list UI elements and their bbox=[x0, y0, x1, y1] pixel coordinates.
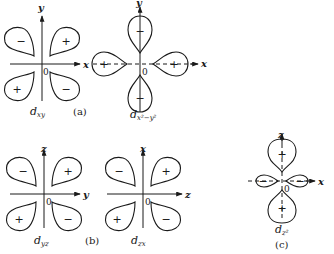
sign-lower-left: + bbox=[112, 213, 121, 226]
sign-upper-right: + bbox=[63, 165, 72, 178]
axis-label-horizontal: x bbox=[317, 176, 325, 187]
sign-upper-right: + bbox=[61, 35, 70, 48]
orbital-name: dzx bbox=[131, 234, 146, 248]
orbital-name: dyz bbox=[34, 234, 49, 248]
axis-label-horizontal: x bbox=[82, 59, 90, 70]
orbital-name: dz² bbox=[275, 223, 289, 237]
orbital-dx2-y2: y x 0 − − + + dx²−y² bbox=[92, 0, 208, 122]
panel-label-a: (a) bbox=[73, 106, 87, 117]
origin-label: 0 bbox=[284, 184, 290, 194]
axis-label-horizontal: x bbox=[200, 58, 208, 69]
sign-top: + bbox=[277, 148, 286, 161]
origin-label: 0 bbox=[142, 67, 148, 77]
origin-label: 0 bbox=[43, 67, 49, 77]
axis-label-horizontal: z bbox=[184, 189, 191, 200]
panel-label-c: (c) bbox=[275, 239, 289, 250]
sign-left-ring: − bbox=[258, 175, 267, 188]
sign-lower-right: − bbox=[61, 83, 70, 96]
axis-label-vertical: z bbox=[277, 129, 284, 140]
sign-upper-left: − bbox=[114, 165, 123, 178]
origin-label: 0 bbox=[145, 197, 151, 207]
sign-bottom: − bbox=[135, 92, 144, 105]
panel-label-b: (b) bbox=[85, 235, 99, 246]
axis-label-vertical: z bbox=[40, 143, 47, 154]
orbital-dz2: z x 0 + + − − dz² bbox=[248, 129, 325, 237]
axis-label-horizontal: y bbox=[82, 189, 90, 200]
sign-upper-left: − bbox=[18, 165, 27, 178]
sign-lower-left: + bbox=[14, 213, 23, 226]
orbital-dyz: z y 0 − + + − dyz bbox=[7, 143, 90, 248]
sign-left: + bbox=[99, 58, 108, 71]
axis-label-vertical: x bbox=[139, 143, 147, 154]
axis-label-vertical: y bbox=[135, 0, 143, 8]
sign-right-ring: − bbox=[295, 175, 304, 188]
sign-lower-right: − bbox=[161, 213, 170, 226]
d-orbital-diagram: y x 0 − + + − dxy (a) y x 0 − − + + dx²−… bbox=[0, 0, 334, 254]
origin-label: 0 bbox=[46, 197, 52, 207]
sign-right: + bbox=[169, 58, 178, 71]
sign-lower-right: − bbox=[63, 213, 72, 226]
axis-label-vertical: y bbox=[37, 2, 45, 13]
sign-bottom: + bbox=[277, 202, 286, 215]
orbital-dxy: y x 0 − + + − dxy bbox=[5, 2, 90, 119]
sign-lower-left: + bbox=[12, 83, 21, 96]
orbital-name: dxy bbox=[30, 105, 46, 119]
sign-top: − bbox=[135, 25, 144, 38]
sign-upper-right: + bbox=[161, 165, 170, 178]
orbital-name: dx²−y² bbox=[130, 108, 157, 122]
sign-upper-left: − bbox=[16, 35, 25, 48]
orbital-dzx: x z 0 − + + − dzx bbox=[106, 143, 191, 248]
